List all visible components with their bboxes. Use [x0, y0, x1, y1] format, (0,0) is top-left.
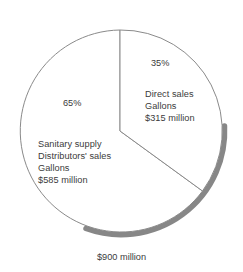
- slice-label-distributors-sales-line-3: Gallons: [38, 162, 111, 174]
- slice-label-distributors-sales-line-1: Sanitary supply: [38, 138, 111, 150]
- chart-total-caption: $900 million: [0, 251, 243, 263]
- pie-chart-figure: 35% 65% Direct sales Gallons $315 millio…: [0, 0, 243, 272]
- pie-chart-graphic: [0, 0, 243, 272]
- slice-label-distributors-sales-line-4: $585 million: [38, 174, 111, 186]
- slice-label-distributors-sales-line-2: Distributors' sales: [38, 150, 111, 162]
- slice-percent-direct-sales: 35%: [151, 57, 169, 69]
- slice-label-distributors-sales: Sanitary supply Distributors' sales Gall…: [38, 138, 111, 186]
- slice-percent-distributors-sales: 65%: [63, 97, 81, 109]
- slice-label-direct-sales: Direct sales Gallons $315 million: [145, 88, 195, 124]
- slice-label-direct-sales-line-3: $315 million: [145, 112, 195, 124]
- slice-label-direct-sales-line-1: Direct sales: [145, 88, 195, 100]
- slice-label-direct-sales-line-2: Gallons: [145, 100, 195, 112]
